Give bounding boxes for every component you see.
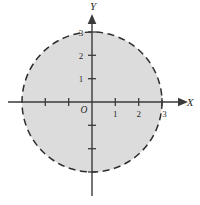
y-tick-label-2: 2 [79,51,84,61]
origin-label: O [81,105,88,115]
y-axis-label: Y [90,0,98,12]
x-tick-label-3: 3 [162,109,167,119]
coordinate-plane-graph: X Y O 3 2 1 1 2 3 [0,0,200,205]
figure-canvas: X Y O 3 2 1 1 2 3 [0,0,200,205]
y-axis-arrowhead-icon [88,14,97,24]
y-tick-label-1: 1 [79,74,84,84]
y-tick-label-3: 3 [79,28,84,38]
x-tick-label-1: 1 [113,109,118,119]
x-axis-label: X [186,96,195,108]
x-tick-label-2: 2 [136,109,141,119]
